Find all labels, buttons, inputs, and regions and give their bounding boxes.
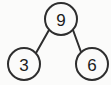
edge-whole-to-left-part xyxy=(36,30,49,53)
number-bond-diagram: 9 3 6 xyxy=(0,0,111,85)
node-whole: 9 xyxy=(45,3,77,35)
left-part-node-label: 3 xyxy=(19,56,28,75)
number-bond-canvas: 9 3 6 xyxy=(0,0,111,85)
right-part-node-label: 6 xyxy=(87,56,96,75)
whole-node-label: 9 xyxy=(56,11,65,30)
edge-whole-to-right-part xyxy=(73,30,81,52)
node-part-right: 6 xyxy=(76,48,108,80)
node-part-left: 3 xyxy=(8,48,40,80)
